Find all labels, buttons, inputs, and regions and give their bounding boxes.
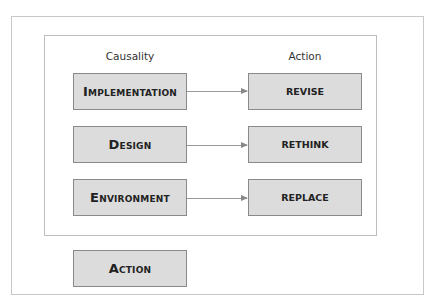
action-legend-box: Action	[73, 250, 187, 287]
action-box-revise: REVISE	[248, 73, 362, 110]
cause-box-environment: Environment	[73, 179, 187, 216]
arrow-connector	[187, 198, 247, 199]
column-header-causality: Causality	[73, 50, 187, 62]
column-header-action: Action	[248, 50, 362, 62]
action-box-replace: REPLACE	[248, 179, 362, 216]
action-box-rethink: RETHINK	[248, 126, 362, 163]
arrow-connector	[187, 145, 247, 146]
cause-box-implementation: Implementation	[73, 73, 187, 110]
arrow-connector	[187, 91, 247, 92]
cause-box-design: Design	[73, 126, 187, 163]
